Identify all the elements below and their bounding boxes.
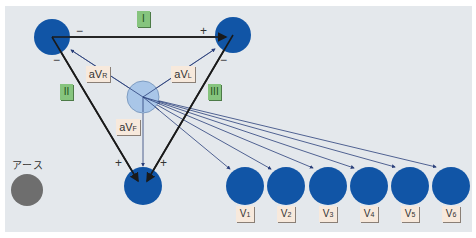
ecg-lead-diagram: [0, 0, 476, 238]
lead-ii-negative-sign: −: [53, 54, 60, 66]
lead-iii-label: III: [208, 84, 221, 100]
chest-electrodes: [226, 167, 470, 205]
lead-i-label: I: [137, 11, 150, 27]
lead-ii-positive-sign: +: [115, 157, 122, 169]
lead-iii-positive-sign: +: [160, 157, 167, 169]
v4-label: V4: [360, 206, 378, 222]
v6-label: V6: [442, 206, 460, 222]
chest-lead-lines: [143, 97, 436, 169]
v5-label: V5: [401, 206, 419, 222]
avl-label: aVL: [171, 66, 195, 82]
left-leg-electrode: [124, 167, 162, 205]
v3-label: V3: [319, 206, 337, 222]
ground-label: アース: [12, 157, 44, 172]
lead-i-positive-sign: +: [200, 25, 207, 37]
v2-label: V2: [277, 206, 295, 222]
ground-electrode: [11, 174, 43, 206]
v1-label: V1: [236, 206, 254, 222]
lead-iii-negative-sign: −: [220, 54, 227, 66]
avf-label: aVF: [116, 119, 140, 135]
lead-i-negative-sign: −: [76, 25, 83, 37]
avr-label: aVR: [86, 66, 110, 82]
lead-ii-label: II: [60, 84, 73, 100]
